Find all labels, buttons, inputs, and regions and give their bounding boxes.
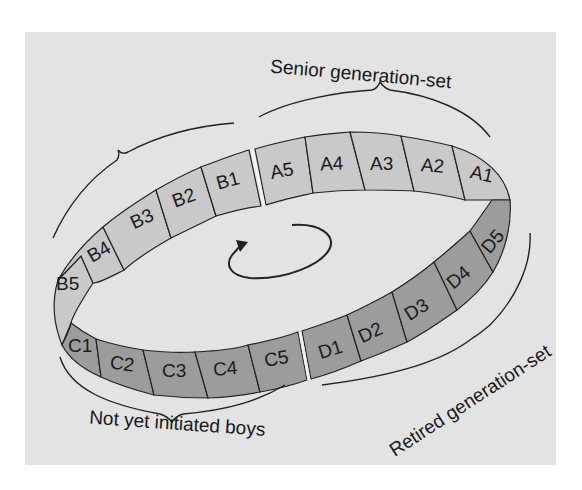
label-a3: A3 <box>370 153 393 174</box>
label-b5: B5 <box>56 273 79 294</box>
label-c1: C1 <box>68 335 92 356</box>
label-a2: A2 <box>420 154 445 177</box>
label-a4: A4 <box>319 152 344 174</box>
label-c4: C4 <box>212 357 238 380</box>
label-a5: A5 <box>268 158 295 183</box>
label-c5: C5 <box>262 346 290 371</box>
age-set-cycle-diagram: A1 A2 A3 A4 A5 B1 B2 B3 B4 B5 C1 C2 C3 C… <box>0 0 582 490</box>
label-c3: C3 <box>162 360 186 381</box>
label-c2: C2 <box>109 351 136 375</box>
